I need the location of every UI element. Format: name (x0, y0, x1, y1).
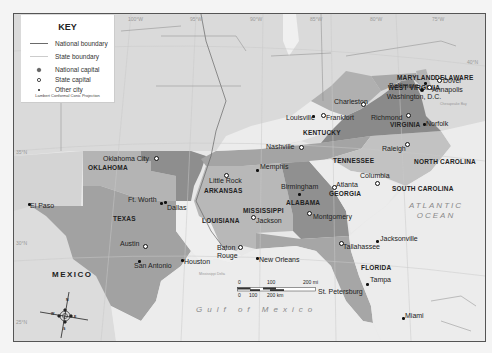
city-marker-austin (143, 244, 148, 249)
tick-85w: 85°W (310, 16, 322, 22)
state-label-louisiana: LOUISIANA (202, 218, 240, 225)
city-marker-ft-worth (160, 202, 163, 205)
key-item-national-capital: National capital (29, 66, 99, 73)
compass-n: N (66, 299, 69, 303)
tick-35n: 35°N (16, 149, 27, 155)
city-marker-charleston (361, 102, 366, 107)
city-label-montgomery: Montgomery (313, 213, 352, 220)
city-label-dallas: Dallas (167, 204, 186, 211)
city-label-little-rock: Little Rock (209, 177, 242, 184)
scale-bar: 0 100 200 mi 0 100 200 km (237, 280, 337, 300)
city-label-nashville: Nashville (266, 143, 294, 150)
state-label-mississippi: MISSISSIPPI (243, 208, 284, 215)
city-marker-baltimore (424, 82, 427, 85)
city-marker-memphis (256, 169, 259, 172)
city-marker-jacksonville (376, 240, 379, 243)
city-label-birmingham: Birmingham (281, 183, 318, 190)
key-item-other-city: Other city (29, 86, 83, 93)
compass-rose: N S W E (40, 290, 90, 340)
state-label-arkansas: ARKANSAS (204, 188, 242, 195)
city-label-jacksonville: Jacksonville (380, 235, 418, 242)
city-marker-montgomery (307, 211, 312, 216)
state-label-tennessee: TENNESSEE (333, 158, 374, 165)
key-item-state-capital: State capital (29, 76, 91, 83)
tick-100w: 100°W (128, 16, 143, 22)
state-boundary-line-icon (29, 55, 49, 58)
city-label-atlanta: Atlanta (336, 181, 358, 188)
other-city-icon (29, 87, 49, 93)
tick-30n: 30°N (16, 240, 27, 246)
city-marker-nashville (299, 145, 304, 150)
city-marker-atlanta (332, 185, 337, 190)
city-label-new-orleans: New Orleans (259, 256, 299, 263)
state-label-north-carolina: NORTH CAROLINA (414, 159, 476, 166)
water-label-gulf: Gulf of Mexico (196, 305, 317, 315)
tick-75w: 75°W (432, 16, 444, 22)
map-key: KEY National boundary State boundary Nat… (21, 15, 115, 103)
city-marker-richmond (406, 113, 411, 118)
city-label-tallahassee: Tallahassee (343, 243, 380, 250)
state-label-south-carolina: SOUTH CAROLINA (392, 186, 454, 193)
city-marker-columbia (375, 181, 380, 186)
water-label-mississippi-delta: Mississippi Delta (199, 273, 225, 277)
city-label-annapolis: Annapolis (432, 86, 463, 93)
city-label-dover: Dover (443, 77, 462, 84)
city-label-san-antonio: San Antonio (134, 262, 172, 269)
compass-s: S (63, 328, 65, 332)
city-label-oklahoma-city: Oklahoma City (103, 155, 149, 162)
national-capital-marker (420, 88, 424, 92)
city-marker-louisville (312, 115, 315, 118)
city-label-louisville: Louisville (286, 114, 315, 121)
state-label-florida: FLORIDA (361, 265, 391, 272)
tick-40n: 40°N (467, 59, 478, 65)
city-label-jackson: Jackson (256, 217, 282, 224)
key-item-state-boundary: State boundary (29, 53, 99, 60)
city-label-columbia: Columbia (360, 172, 390, 179)
city-marker-birmingham (298, 193, 301, 196)
country-label-mexico: MEXICO (52, 271, 93, 279)
water-label-chesapeake: Chesapeake Bay (440, 103, 467, 107)
tick-25n: 25°N (16, 319, 27, 325)
key-item-national-boundary: National boundary (29, 40, 108, 47)
city-label-el-paso: El Paso (30, 202, 54, 209)
city-label-norfolk: Norfolk (426, 120, 448, 127)
city-label-memphis: Memphis (260, 163, 288, 170)
city-marker-raleigh (405, 142, 410, 147)
city-marker-baton-rouge (238, 245, 243, 250)
city-label-ft-worth: Ft. Worth (128, 196, 157, 203)
city-marker-dover (437, 78, 442, 83)
compass-e: E (74, 316, 76, 320)
state-capital-icon (29, 77, 49, 83)
city-label-tampa: Tampa (370, 276, 391, 283)
compass-rose-icon (40, 290, 90, 340)
city-label-houston: Houston (184, 258, 210, 265)
state-label-maryland: MARYLAND (397, 75, 436, 82)
city-marker-tampa (366, 283, 369, 286)
state-label-kentucky: KENTUCKY (303, 130, 341, 137)
state-label-georgia: GEORGIA (329, 191, 361, 198)
projection-note: Lambert Conformal Conic Projection (21, 93, 114, 98)
city-label-miami: Miami (405, 312, 424, 319)
city-label-baltimore: Baltimore (389, 82, 419, 89)
state-label-alabama: ALABAMA (286, 200, 320, 207)
national-capital-icon (29, 67, 49, 73)
national-boundary-line-icon (29, 42, 49, 45)
compass-w: W (51, 313, 54, 317)
state-label-oklahoma: OKLAHOMA (88, 165, 128, 172)
water-label-atlantic: ATLANTIC OCEAN (406, 201, 466, 220)
key-title: KEY (21, 22, 114, 32)
tick-80w: 80°W (370, 16, 382, 22)
city-label-richmond: Richmond (371, 114, 403, 121)
city-label-raleigh: Raleigh (382, 145, 406, 152)
city-label-washington: Washington, D.C. (386, 93, 442, 100)
tick-90w: 90°W (250, 16, 262, 22)
state-label-texas: TEXAS (113, 216, 136, 223)
city-label-austin: Austin (120, 240, 139, 247)
tick-95w: 95°W (190, 16, 202, 22)
city-marker-oklahoma-city (154, 156, 159, 161)
state-label-virginia: VIRGINIA (390, 122, 421, 129)
city-label-frankfort: Frankfort (326, 114, 354, 121)
